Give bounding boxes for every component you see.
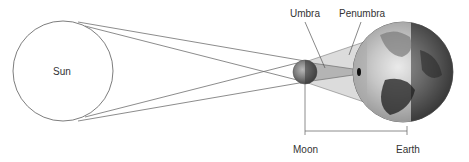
eclipse-diagram: Sun Umbra Penumbra Moon Earth [0,0,469,162]
earth [353,22,456,122]
umbra-label: Umbra [290,8,320,19]
moon [293,60,317,84]
penumbra-label: Penumbra [339,8,386,19]
sun-label: Sun [53,66,71,77]
moon-label: Moon [293,144,318,155]
earth-label: Earth [396,144,420,155]
